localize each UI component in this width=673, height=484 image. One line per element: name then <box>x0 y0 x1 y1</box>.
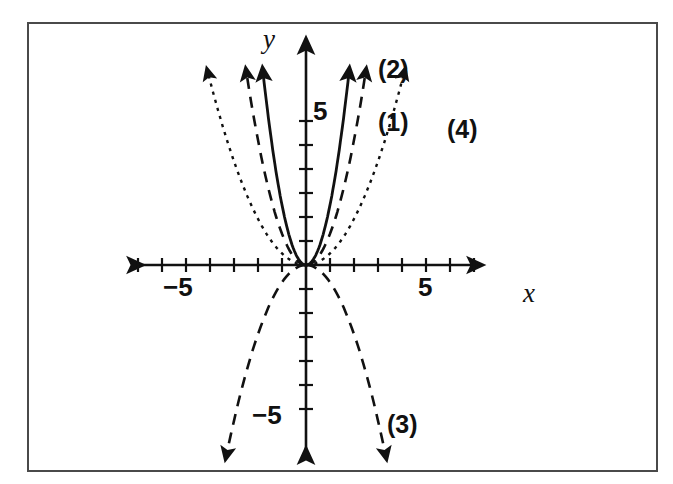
x-tick-label-negative-5: −5 <box>163 272 193 303</box>
y-axis-label: y <box>263 24 275 55</box>
parabola-plot <box>0 0 673 484</box>
curve-label-2: (2) <box>378 55 409 84</box>
figure-container: y x −5 5 5 −5 (1) (2) (3) (4) <box>0 0 673 484</box>
curve-4-left-dotted <box>208 73 306 265</box>
axes-group <box>136 45 476 455</box>
curve-label-1: (1) <box>378 108 409 137</box>
curve-label-3: (3) <box>387 410 418 439</box>
curve-3-right-dashed <box>306 265 386 455</box>
y-tick-label-positive-5: 5 <box>313 96 327 127</box>
y-tick-label-negative-5: −5 <box>252 400 282 431</box>
x-axis-label: x <box>523 278 535 309</box>
curve-label-4: (4) <box>447 115 478 144</box>
x-tick-label-positive-5: 5 <box>418 272 432 303</box>
